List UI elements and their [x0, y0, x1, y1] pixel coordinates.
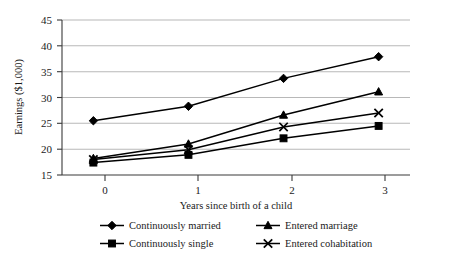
legend-label: Continuously married	[129, 220, 222, 231]
x-tickmarks	[105, 175, 385, 181]
y-tick-label-45: 45	[41, 14, 53, 26]
chart-canvas: 15 20 25 30 35 40 45 0 1 2 3 Earnings ($…	[0, 0, 455, 265]
y-tickmarks	[57, 20, 62, 175]
x-tick-label-3: 3	[382, 184, 388, 196]
x-tick-label-1: 1	[195, 184, 201, 196]
y-tick-label-20: 20	[41, 143, 53, 155]
y-tick-label-40: 40	[41, 40, 53, 52]
y-tick-label-30: 30	[41, 92, 53, 104]
legend-label: Continuously single	[129, 238, 214, 249]
legend-marker-square-icon	[109, 240, 116, 247]
datapoint-square-3	[375, 122, 382, 129]
legend-item-entered-marriage[interactable]: Entered marriage	[256, 220, 358, 231]
legend-label: Entered marriage	[285, 220, 358, 231]
line-chart: 15 20 25 30 35 40 45 0 1 2 3 Earnings ($…	[0, 0, 455, 265]
x-axis-title: Years since birth of a child	[180, 200, 293, 211]
legend-item-continuously-single[interactable]: Continuously single	[100, 238, 214, 249]
legend-marker-diamond-icon	[108, 221, 116, 229]
chart-legend: Continuously marriedEntered marriageCont…	[100, 220, 373, 249]
x-tick-label-2: 2	[289, 184, 295, 196]
legend-label: Entered cohabitation	[285, 238, 373, 249]
y-tick-label-15: 15	[41, 169, 53, 181]
legend-item-continuously-married[interactable]: Continuously married	[100, 220, 222, 231]
legend-item-entered-cohabitation[interactable]: Entered cohabitation	[256, 238, 373, 249]
y-tick-label-25: 25	[41, 117, 53, 129]
x-tick-label-0: 0	[102, 184, 108, 196]
y-axis-title: Earnings ($1,000)	[13, 59, 25, 135]
datapoint-square-2	[280, 135, 287, 142]
y-tick-label-35: 35	[41, 66, 53, 78]
